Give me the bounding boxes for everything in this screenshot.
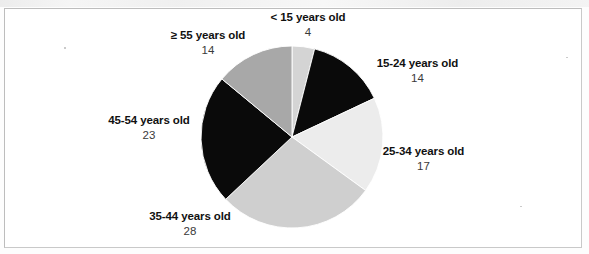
- pie-label-text: ≥ 55 years old: [150, 29, 266, 43]
- pie-label-35-44: 35-44 years old 28: [131, 210, 249, 238]
- pie-label-text: 25-34 years old: [366, 145, 481, 159]
- pie-label-45-54: 45-54 years old 23: [90, 114, 208, 142]
- pie-label-lt-15: < 15 years old 4: [253, 11, 363, 39]
- pie-label-value: 14: [360, 72, 475, 86]
- pie-slice-group: [201, 46, 383, 228]
- pie-label-ge-55: ≥ 55 years old 14: [150, 29, 266, 57]
- pie-chart: < 15 years old 4 15-24 years old 14 25-3…: [0, 0, 589, 254]
- pie-label-value: 14: [150, 44, 266, 58]
- pie-label-text: < 15 years old: [253, 11, 363, 25]
- pie-label-25-34: 25-34 years old 17: [366, 145, 481, 173]
- pie-label-text: 35-44 years old: [131, 210, 249, 224]
- pie-label-text: 15-24 years old: [360, 57, 475, 71]
- pie-label-value: 4: [253, 26, 363, 40]
- pie-label-value: 23: [90, 129, 208, 143]
- scanned-page: < 15 years old 4 15-24 years old 14 25-3…: [0, 0, 589, 254]
- pie-label-text: 45-54 years old: [90, 114, 208, 128]
- pie-label-value: 17: [366, 160, 481, 174]
- pie-label-value: 28: [131, 225, 249, 239]
- pie-label-15-24: 15-24 years old 14: [360, 57, 475, 85]
